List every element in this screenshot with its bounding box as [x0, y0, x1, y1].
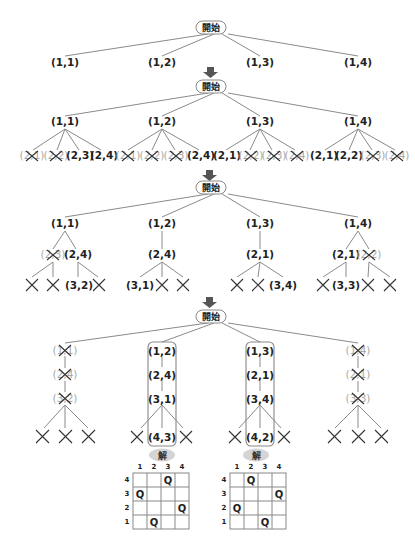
cross-icon — [231, 279, 243, 291]
cross-icon — [362, 279, 374, 291]
down-arrow-icon — [202, 297, 217, 308]
svg-text:4: 4 — [125, 476, 130, 484]
tree-node: (1,4) — [344, 115, 372, 127]
pruned-node: (2,4) — [285, 149, 310, 161]
svg-text:2: 2 — [222, 504, 227, 512]
svg-text:(2,4): (2,4) — [285, 149, 310, 161]
cross-icon — [36, 430, 49, 443]
tree-node: (2,4) — [148, 369, 176, 381]
svg-text:(2,2): (2,2) — [140, 149, 165, 161]
svg-text:(2,2): (2,2) — [357, 248, 382, 260]
pruned-node: (2,2) — [357, 248, 382, 260]
queen-piece: Q — [233, 503, 242, 514]
pruned-branch: (1,1) (2,4) (3,2) — [36, 344, 95, 443]
queen-piece: Q — [247, 475, 256, 486]
svg-text:(2,3): (2,3) — [262, 149, 287, 161]
tree-node: (1,1) — [51, 115, 79, 127]
svg-text:(2,1): (2,1) — [20, 149, 45, 161]
cross-icon — [317, 279, 329, 291]
tree-node: (2,4) — [90, 149, 118, 161]
tree-node: (2,4) — [187, 149, 215, 161]
svg-text:2: 2 — [125, 504, 130, 512]
cross-icon — [180, 431, 192, 443]
tree-node: (2,4) — [148, 248, 176, 260]
tree-node: (1,4) — [344, 56, 372, 68]
svg-text:(2,3): (2,3) — [41, 248, 66, 260]
cross-icon — [156, 279, 168, 291]
pruned-node: (2,4) — [385, 149, 410, 161]
queen-piece: Q — [136, 489, 145, 500]
cross-icon — [278, 431, 290, 443]
tree-node: (1,2) — [148, 56, 176, 68]
svg-text:解: 解 — [158, 450, 167, 461]
pruned-node: (2,3) — [262, 149, 287, 161]
svg-text:1: 1 — [222, 518, 227, 526]
tree-node: (1,3) — [246, 217, 274, 229]
svg-text:(2,2): (2,2) — [44, 149, 69, 161]
board-grid — [230, 473, 286, 529]
start-node: 開始 — [196, 80, 226, 93]
tree-node: (3,2) — [65, 279, 93, 291]
tree-node: (1,3) — [246, 115, 274, 127]
tree-node: (2,1) — [213, 149, 241, 161]
svg-text:3: 3 — [263, 463, 268, 471]
tree-node: (4,3) — [148, 431, 176, 443]
queen-piece: Q — [178, 503, 187, 514]
tree-node: (3,3) — [332, 279, 360, 291]
queen-piece: Q — [261, 517, 270, 528]
cross-icon — [384, 279, 396, 291]
queen-piece: Q — [275, 489, 284, 500]
svg-text:(2,1): (2,1) — [116, 149, 141, 161]
tree-node: (1,1) — [51, 56, 79, 68]
tree-node: (1,2) — [148, 217, 176, 229]
cross-icon — [328, 430, 341, 443]
solution-board-2: 1 2 3 4 4 3 2 1 Q Q Q Q — [222, 463, 286, 529]
cross-icon — [82, 430, 95, 443]
svg-text:2: 2 — [152, 463, 157, 471]
cross-icon — [131, 431, 143, 443]
svg-text:3: 3 — [125, 490, 130, 498]
svg-text:1: 1 — [138, 463, 143, 471]
svg-text:4: 4 — [222, 476, 227, 484]
pruned-node: (2,3) — [361, 149, 386, 161]
solution-board-1: 1 2 3 4 4 3 2 1 Q Q Q Q — [125, 463, 189, 529]
solution-branch: (1,3) (2,1) (3,4) (4,2) — [229, 342, 290, 446]
cross-icon — [252, 279, 264, 291]
svg-text:開始: 開始 — [202, 182, 220, 193]
svg-text:4: 4 — [180, 463, 185, 471]
pruned-branch: (1,4) (2,1) (3,3) — [328, 344, 388, 443]
tree-node: (1,2) — [148, 345, 176, 357]
cross-icon — [177, 279, 189, 291]
svg-text:(2,3): (2,3) — [164, 149, 189, 161]
pruned-node: (2,1) — [116, 149, 141, 161]
cross-icon — [352, 430, 365, 443]
tree-node: (1,2) — [148, 115, 176, 127]
svg-text:解: 解 — [252, 450, 261, 461]
n-queens-search-tree-diagram: 開始 (1,1) (1,2) (1,3) (1,4) 開始 (1,1) (1,2… — [0, 0, 415, 545]
solution-badge: 解 — [243, 449, 269, 462]
step-4-tree: 開始 (1,1) (2,4) (3,2) (1,2 — [36, 310, 388, 462]
tree-node: (2,2) — [335, 149, 363, 161]
pruned-node: (2,3) — [164, 149, 189, 161]
tree-node: (1,1) — [51, 217, 79, 229]
cross-icon — [229, 431, 241, 443]
start-node: 開始 — [196, 21, 226, 34]
board-grid — [133, 473, 189, 529]
svg-text:開始: 開始 — [202, 81, 220, 92]
pruned-node: (2,2) — [140, 149, 165, 161]
tree-node: (3,1) — [148, 393, 176, 405]
svg-text:(2,3): (2,3) — [361, 149, 386, 161]
cross-icon — [47, 279, 59, 291]
solution-badge: 解 — [149, 449, 175, 462]
svg-text:(2,2): (2,2) — [239, 149, 264, 161]
start-node: 開始 — [196, 181, 226, 194]
svg-text:(2,4): (2,4) — [385, 149, 410, 161]
step-3-tree: 開始 (1,1) (1,2) (1,3) (1,4) (2,3) (2,4) (… — [26, 181, 396, 291]
tree-node: (1,4) — [344, 217, 372, 229]
tree-node: (3,4) — [269, 279, 297, 291]
cross-icon — [59, 430, 72, 443]
tree-node: (2,1) — [246, 369, 274, 381]
svg-text:開始: 開始 — [202, 311, 220, 322]
svg-text:3: 3 — [166, 463, 171, 471]
svg-text:1: 1 — [235, 463, 240, 471]
